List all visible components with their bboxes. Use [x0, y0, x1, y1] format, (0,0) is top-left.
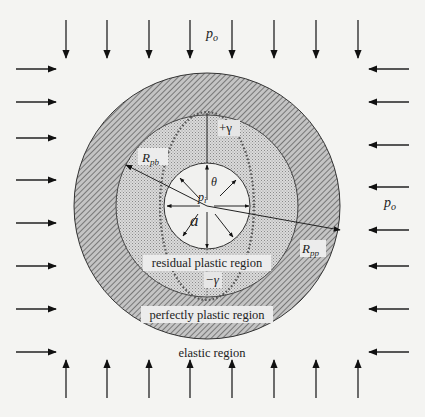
po-right-label: po — [383, 195, 396, 212]
plus-gamma-label: +γ — [219, 120, 232, 135]
left-pressure-arrows — [16, 69, 56, 352]
cavity-diagram: po po +γ θ pi a Rpb Rpp residual plastic… — [0, 0, 425, 417]
cavity-radius-label: a — [190, 211, 199, 230]
elastic-region-label: elastic region — [179, 346, 247, 360]
po-top-label: po — [205, 26, 218, 43]
bottom-pressure-arrows — [66, 360, 358, 398]
right-pressure-arrows — [369, 69, 409, 352]
theta-label: θ — [211, 175, 217, 189]
diagram-canvas: po po +γ θ pi a Rpb Rpp residual plastic… — [0, 0, 425, 417]
perfectly-plastic-region-label: perfectly plastic region — [149, 308, 265, 322]
residual-plastic-region-label: residual plastic region — [152, 256, 263, 270]
minus-gamma-label: −γ — [205, 272, 220, 287]
